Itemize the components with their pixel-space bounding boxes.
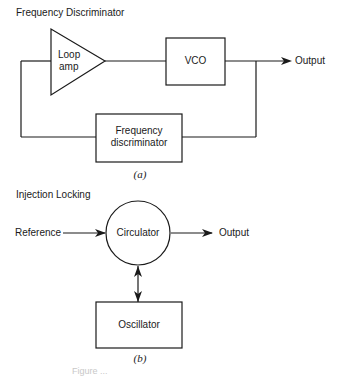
loop-amp-label-2: amp	[59, 61, 78, 73]
figure-caption: Figure ...	[72, 366, 108, 376]
loop-amp-label-1: Loop	[58, 49, 80, 61]
diagram-a-title: Frequency Discriminator	[16, 7, 124, 19]
vco-label: VCO	[166, 55, 225, 67]
diagram-b-title: Injection Locking	[16, 189, 91, 201]
sublabel-b: (b)	[120, 352, 160, 364]
reference-label: Reference	[15, 227, 61, 239]
discriminator-label-1: Frequency	[96, 125, 182, 137]
discriminator-label-2: discriminator	[96, 137, 182, 149]
circulator-label: Circulator	[106, 227, 170, 239]
output-b-label: Output	[219, 227, 249, 239]
output-a-label: Output	[295, 55, 325, 67]
oscillator-label: Oscillator	[96, 319, 182, 331]
sublabel-a: (a)	[120, 168, 160, 180]
